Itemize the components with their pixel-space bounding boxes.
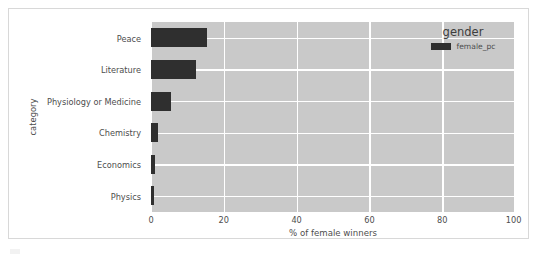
below-figure-strip (0, 246, 546, 256)
gridline-x-40 (297, 22, 298, 212)
x-tick-label-40: 40 (291, 215, 301, 225)
gridline-y-chemistry (151, 133, 515, 134)
x-tick-label-20: 20 (219, 215, 229, 225)
gridline-x-60 (369, 22, 370, 212)
gridline-y-physiology (151, 101, 515, 102)
gridline-y-economics (151, 164, 515, 165)
legend-title: gender (417, 26, 509, 39)
bar-peace (151, 28, 207, 47)
bar-literature (151, 60, 196, 79)
gridline-y-physics (151, 196, 515, 197)
legend-entry-female-pc: female_pc (417, 42, 509, 51)
gridline-x-0 (151, 22, 152, 212)
below-figure-partial-mark (10, 249, 20, 254)
y-tick-label-economics: Economics (97, 160, 141, 170)
x-tick-label-80: 80 (437, 215, 447, 225)
x-tick-label-100: 100 (506, 215, 522, 225)
bar-physics (151, 186, 154, 205)
gridline-x-100 (514, 22, 515, 212)
x-axis-tick-labels: 0 20 40 60 80 100 (151, 215, 515, 229)
gridline-x-20 (224, 22, 225, 212)
x-tick-label-0: 0 (148, 215, 153, 225)
y-tick-label-chemistry: Chemistry (99, 128, 141, 138)
figure-frame: category Peace Literature Physiology or … (8, 8, 529, 239)
bar-physiology (151, 92, 171, 111)
plot-panel: gender female_pc (151, 22, 515, 212)
legend-swatch-icon (431, 43, 451, 50)
y-axis-tick-labels: Peace Literature Physiology or Medicine … (9, 22, 147, 212)
y-tick-label-literature: Literature (101, 65, 141, 75)
bar-economics (151, 155, 155, 174)
gridline-y-literature (151, 69, 515, 70)
x-tick-label-60: 60 (364, 215, 374, 225)
legend: gender female_pc (417, 26, 509, 51)
x-axis-title: % of female winners (151, 228, 515, 238)
bar-chemistry (151, 123, 158, 142)
y-tick-label-physiology: Physiology or Medicine (47, 97, 141, 107)
y-tick-label-peace: Peace (117, 34, 141, 44)
y-tick-label-physics: Physics (111, 192, 141, 202)
legend-entry-label: female_pc (457, 42, 496, 51)
